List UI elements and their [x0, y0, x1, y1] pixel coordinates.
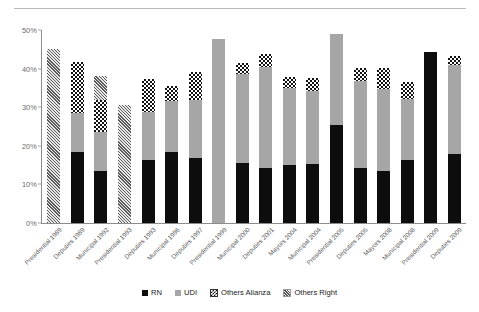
bar-segment-others-right: [47, 49, 60, 223]
bar-segment-others-alianza: [165, 86, 178, 101]
bar-stack[interactable]: [330, 34, 343, 223]
y-axis-tick-label: 0%: [26, 219, 37, 228]
bar-segment-rn: [165, 152, 178, 223]
bar-segment-others-alianza: [189, 72, 202, 101]
bar-segment-udi: [71, 113, 84, 152]
bar-segment-others-right: [118, 105, 131, 223]
bar-segment-others-alianza: [283, 77, 296, 88]
legend-label: RN: [151, 288, 162, 297]
bar-segment-rn: [424, 52, 437, 223]
bar-segment-others-alianza: [306, 78, 319, 91]
bar-stack[interactable]: [283, 77, 296, 223]
bar-stack[interactable]: [94, 76, 107, 223]
bar-segment-rn: [189, 158, 202, 223]
legend-item-udi[interactable]: UDI: [175, 288, 197, 297]
legend-label: UDI: [184, 288, 197, 297]
y-axis-tick-label: 30%: [22, 103, 37, 112]
bar-segment-udi: [259, 67, 272, 169]
bar-stack[interactable]: [212, 39, 225, 224]
bar-segment-others-alianza: [236, 63, 249, 74]
bar-segment-udi: [377, 89, 390, 171]
bar-segment-rn: [330, 125, 343, 223]
bar-segment-udi: [354, 81, 367, 168]
legend-swatch-icon: [283, 289, 291, 297]
bar-stack[interactable]: [47, 49, 60, 223]
bar-stack[interactable]: [377, 68, 390, 223]
bar-stack[interactable]: [165, 86, 178, 223]
bar-stack[interactable]: [448, 56, 461, 223]
legend-item-rn[interactable]: RN: [142, 288, 162, 297]
bar-segment-others-alianza: [448, 56, 461, 65]
legend-swatch-icon: [142, 290, 148, 296]
bar-stack[interactable]: [306, 78, 319, 223]
bar-segment-rn: [71, 152, 84, 223]
bar-segment-rn: [401, 160, 414, 223]
y-axis-tick-label: 20%: [22, 141, 37, 150]
x-axis-line: [41, 223, 466, 224]
legend-label: Others Alianza: [221, 288, 270, 297]
bar-segment-rn: [283, 165, 296, 223]
bar-segment-others-alianza: [354, 68, 367, 82]
bar-segment-others-alianza: [259, 54, 272, 66]
bar-stack[interactable]: [259, 54, 272, 223]
bar-stack[interactable]: [189, 72, 202, 223]
legend-label: Others Right: [294, 288, 337, 297]
bar-segment-others-alianza: [377, 68, 390, 88]
bar-segment-rn: [354, 168, 367, 223]
bar-stack[interactable]: [236, 63, 249, 223]
bar-segment-udi: [236, 74, 249, 163]
bar-segment-udi: [165, 101, 178, 152]
bar-segment-rn: [448, 154, 461, 223]
bar-segment-udi: [283, 88, 296, 165]
bar-stack[interactable]: [401, 82, 414, 223]
bar-segment-rn: [142, 160, 155, 223]
bar-segment-udi: [330, 34, 343, 125]
legend-swatch-icon: [175, 290, 181, 296]
legend-swatch-icon: [210, 289, 218, 297]
bar-segment-others-alianza: [94, 100, 107, 132]
bar-segment-udi: [448, 65, 461, 154]
bar-segment-rn: [306, 164, 319, 223]
bar-segment-others-alianza: [401, 82, 414, 99]
bar-segment-others-right: [94, 76, 107, 100]
y-axis-tick-mark: [38, 30, 41, 31]
bar-segment-udi: [189, 100, 202, 158]
y-axis-tick-label: 50%: [22, 26, 37, 35]
bar-stack[interactable]: [142, 79, 155, 223]
bar-stack[interactable]: [354, 68, 367, 223]
legend-item-others-right[interactable]: Others Right: [283, 288, 337, 297]
bar-segment-rn: [94, 171, 107, 223]
bar-segment-udi: [212, 39, 225, 224]
plot-area: 0%10%20%30%40%50%: [42, 30, 466, 223]
bar-stack[interactable]: [424, 52, 437, 223]
y-axis-tick-mark: [38, 68, 41, 69]
bar-stack[interactable]: [71, 62, 84, 223]
legend-item-others-alianza[interactable]: Others Alianza: [210, 288, 270, 297]
y-axis-tick-mark: [38, 145, 41, 146]
stacked-bar-chart: 0%10%20%30%40%50% Presidential 1989Deput…: [0, 0, 479, 312]
chart-legend: RNUDIOthers AlianzaOthers Right: [0, 288, 479, 297]
bar-segment-others-alianza: [142, 79, 155, 112]
bar-segment-udi: [401, 99, 414, 161]
bar-segment-udi: [94, 132, 107, 171]
bar-segment-udi: [306, 91, 319, 164]
y-axis-tick-mark: [38, 184, 41, 185]
bar-segment-udi: [142, 112, 155, 160]
bar-segment-rn: [236, 163, 249, 223]
bar-segment-rn: [377, 171, 390, 223]
y-axis-tick-mark: [38, 223, 41, 224]
y-axis-tick-label: 40%: [22, 64, 37, 73]
y-axis-tick-mark: [38, 107, 41, 108]
bar-stack[interactable]: [118, 105, 131, 223]
y-axis-tick-label: 10%: [22, 180, 37, 189]
bar-segment-others-alianza: [71, 62, 84, 112]
bar-segment-rn: [259, 168, 272, 223]
